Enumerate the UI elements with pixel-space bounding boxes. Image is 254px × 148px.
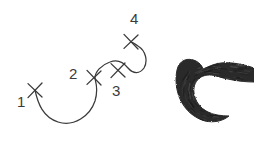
control-point-cross-3[interactable] bbox=[111, 63, 125, 78]
control-point-label-1: 1 bbox=[17, 93, 25, 110]
guide-curve-path bbox=[35, 42, 146, 123]
control-point-cross-2[interactable] bbox=[87, 70, 101, 85]
control-point-labels: 1234 bbox=[17, 10, 138, 110]
control-point-cross-4[interactable] bbox=[124, 34, 138, 49]
diagram-canvas: 1234 bbox=[0, 0, 254, 148]
guide-curve-group bbox=[35, 42, 146, 123]
control-point-cross-1[interactable] bbox=[28, 83, 42, 98]
control-point-label-2: 2 bbox=[69, 65, 77, 82]
control-point-marks bbox=[28, 34, 138, 97]
brush-stroke-group bbox=[176, 59, 254, 127]
control-point-label-3: 3 bbox=[112, 82, 120, 99]
control-point-label-4: 4 bbox=[130, 10, 138, 27]
diagram-svg: 1234 bbox=[0, 0, 254, 148]
